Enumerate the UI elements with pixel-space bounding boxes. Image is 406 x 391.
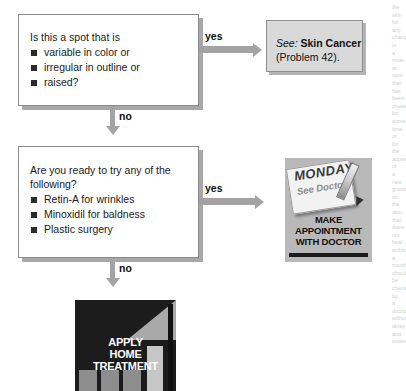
decision-box-treatment-options-list: Retin-A for wrinkles Minoxidil for baldn… [30,193,198,237]
bleed-text-line: on [392,194,406,202]
bullet-square-icon [31,50,37,56]
bleed-text-line: without [392,315,406,323]
edge-q1-yes-line [199,46,253,53]
bleed-text-line: month [392,262,406,270]
bleed-text-line: or [392,65,406,73]
edge-q1-no-arrowhead [106,126,120,135]
bleed-text-line: present [392,103,406,111]
decision-box-treatment-question: Are you ready to try any of the followin… [30,164,188,191]
bleed-text-line: be [392,277,406,285]
edge-label-q1-no: no [119,111,132,122]
bleed-text-line: for [392,19,406,27]
pencil-tip-icon [353,196,364,207]
edge-q2-no-line [110,258,115,280]
bleed-text-line: the [392,148,406,156]
bleed-text-line: any [392,27,406,35]
bleed-text-line: a [392,255,406,263]
list-item: variable in color or [30,46,198,60]
bleed-text-line: should [392,270,406,278]
option-label: Minoxidil for baldness [44,208,145,220]
house-window [79,370,97,391]
edge-label-q2-yes: yes [205,183,223,194]
bleed-text-line: that [392,217,406,225]
option-label: Retin-A for wrinkles [44,193,134,205]
photo-caption-line-2: HOME [75,348,176,361]
bullet-square-icon [31,80,37,86]
decision-box-skin-spot[interactable]: Is this a spot that is variable in color… [18,14,199,106]
bleed-text-line: heal [392,239,406,247]
option-label: Plastic surgery [44,223,113,235]
photo-caption-line-2: APPOINTMENT [285,226,372,237]
bleed-text-line: growth [392,186,406,194]
bullet-square-icon [31,197,37,203]
bleed-text-line: new [392,179,406,187]
bleed-text-line: appearance [392,156,406,164]
option-label: raised? [44,76,78,88]
house-window [101,370,119,391]
bleed-text-line: checked [392,285,406,293]
decision-box-treatment-options[interactable]: Are you ready to try any of the followin… [18,146,199,258]
option-label: variable in color or [44,46,130,58]
decision-box-skin-spot-options: variable in color or irregular in outlin… [30,46,198,90]
bleed-text-line: a [392,50,406,58]
bleed-text-line: treated [392,338,406,346]
edge-label-q2-no: no [119,263,132,274]
list-item: irregular in outline or [30,61,198,75]
bleed-text-line: spot [392,72,406,80]
bleed-text-line: change [392,34,406,42]
list-item: Minoxidil for baldness [30,208,198,222]
bleed-text-line: time [392,126,406,134]
bleed-text-line: by [392,293,406,301]
edge-q2-yes-arrowhead [255,195,264,209]
bleed-text-line: that [392,80,406,88]
photo-caption-line-3: TREATMENT [75,360,176,373]
bleed-text-line: skin [392,209,406,217]
reference-topic: Skin Cancer [301,37,362,49]
bleed-text-line: delay [392,323,406,331]
bleed-text-line: some [392,118,406,126]
list-item: raised? [30,76,198,90]
bleed-text-line: a [392,171,406,179]
photo-make-appointment[interactable]: MONDAY See Doctor MAKE APPOINTMENT WITH … [285,158,372,262]
bleed-text-line: has [392,88,406,96]
bullet-square-icon [31,212,37,218]
edge-q1-yes-arrowhead [253,43,262,57]
list-item: Plastic surgery [30,223,198,237]
photo-caption-line-3: WITH DOCTOR [285,237,372,248]
list-item: Retin-A for wrinkles [30,193,198,207]
reference-problem-number: (Problem 42). [276,51,362,65]
bleed-text-line: of [392,163,406,171]
edge-q1-no-line [110,106,115,128]
bullet-square-icon [31,227,37,233]
photo-caption-line-1: APPLY [75,336,176,349]
bullet-square-icon [31,65,37,71]
bleed-text-line: doctor [392,308,406,316]
page-bleed-text-column: theskinforanychangeinamoleorspotthathasb… [392,4,406,391]
bleed-text-line: been [392,95,406,103]
reference-box-topic-line: See: Skin Cancer [276,37,362,51]
edge-q2-no-arrowhead [106,278,120,287]
bleed-text-line: in [392,42,406,50]
reference-see-label: See: [276,37,298,49]
photo-bottom-rule [289,253,368,257]
bleed-text-line: for [392,110,406,118]
bleed-text-line: the [392,4,406,12]
bleed-text-line: skin [392,12,406,20]
bleed-text-line: does [392,224,406,232]
edge-q2-yes-line [199,198,255,205]
bleed-text-line: for [392,141,406,149]
reference-box-skin-cancer[interactable]: See: Skin Cancer (Problem 42). [266,20,363,72]
house-window [123,370,141,391]
bleed-text-line: within [392,247,406,255]
decision-box-skin-spot-question: Is this a spot that is [30,31,198,45]
edge-label-q1-yes: yes [205,31,223,42]
bleed-text-line: not [392,232,406,240]
bleed-text-line: mole [392,57,406,65]
bleed-text-line: and [392,331,406,339]
bleed-text-line: a [392,300,406,308]
bleed-text-line: the [392,201,406,209]
option-label: irregular in outline or [44,61,140,73]
photo-caption-line-1: MAKE [285,215,372,226]
flowchart-canvas: Is this a spot that is variable in color… [0,0,406,391]
photo-apply-home-treatment[interactable]: APPLY HOME TREATMENT [75,300,176,391]
